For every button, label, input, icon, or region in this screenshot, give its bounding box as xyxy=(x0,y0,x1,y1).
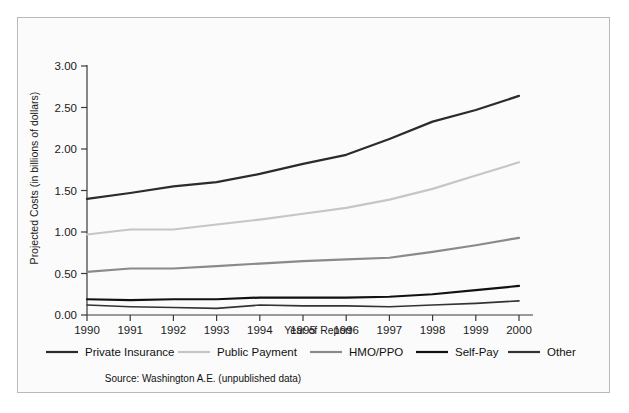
series-line-hmo-ppo xyxy=(87,238,519,272)
y-tick-label: 2.00 xyxy=(55,143,77,155)
series-lines xyxy=(87,96,519,308)
x-tick-label: 1990 xyxy=(74,324,100,336)
y-tick-label: 1.00 xyxy=(55,226,77,238)
chart-figure: 0.000.501.001.502.002.503.00 19901991199… xyxy=(17,17,610,393)
x-tick-label: 1998 xyxy=(420,324,446,336)
legend-label-public-payment: Public Payment xyxy=(217,346,298,358)
x-tick-label: 1993 xyxy=(204,324,230,336)
x-tick-label: 1999 xyxy=(463,324,489,336)
x-tick-label: 1994 xyxy=(247,324,273,336)
x-tick-label: 1997 xyxy=(377,324,403,336)
x-tick-label: 2000 xyxy=(506,324,532,336)
y-tick-label: 1.50 xyxy=(55,185,77,197)
legend-label-hmo-ppo: HMO/PPO xyxy=(349,346,403,358)
x-tick-label: 1992 xyxy=(161,324,187,336)
legend-label-other: Other xyxy=(547,346,576,358)
series-line-public-payment xyxy=(87,162,519,234)
line-chart: 0.000.501.001.502.002.503.00 19901991199… xyxy=(18,18,609,392)
source-note: Source: Washington A.E. (unpublished dat… xyxy=(105,373,301,384)
y-tick-label: 2.50 xyxy=(55,102,77,114)
x-axis-title: Year of Report xyxy=(284,324,351,336)
y-tick-label: 3.00 xyxy=(55,60,77,72)
y-axis: 0.000.501.001.502.002.503.00 xyxy=(55,60,87,321)
y-tick-label: 0.50 xyxy=(55,268,77,280)
y-tick-label: 0.00 xyxy=(55,309,77,321)
y-axis-title: Projected Costs (in billions of dollars) xyxy=(28,92,40,265)
chart-legend: Private InsurancePublic PaymentHMO/PPOSe… xyxy=(46,346,576,358)
legend-label-self-pay: Self-Pay xyxy=(455,346,499,358)
series-line-private-insurance xyxy=(87,96,519,199)
x-tick-label: 1991 xyxy=(117,324,143,336)
legend-label-private-insurance: Private Insurance xyxy=(85,346,175,358)
series-line-self-pay xyxy=(87,286,519,300)
series-line-other xyxy=(87,301,519,308)
